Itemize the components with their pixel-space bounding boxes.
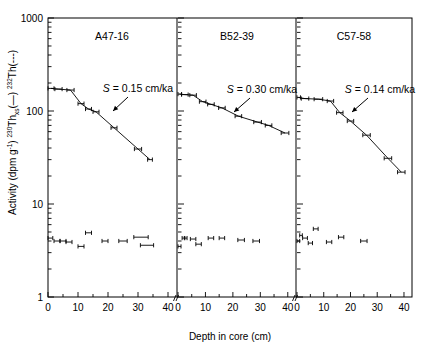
series-line-230Th-xs bbox=[179, 94, 285, 133]
x-tick-label: 40 bbox=[398, 302, 410, 313]
x-tick-label: 10 bbox=[200, 302, 212, 313]
panel-title-A47-16: A47-16 bbox=[95, 30, 129, 42]
x-tick-label: 40 bbox=[162, 302, 174, 313]
y-axis-label: Activity (dpm g-1) 230Thxs(—) 232Th(---) bbox=[6, 50, 20, 215]
x-axis-label: Depth in core (cm) bbox=[189, 331, 271, 342]
x-tick-label: 20 bbox=[102, 302, 114, 313]
x-tick-label: 40 bbox=[282, 302, 294, 313]
x-tick-label: 30 bbox=[372, 302, 384, 313]
y-tick-label: 100 bbox=[26, 106, 43, 117]
y-tick-label: 10 bbox=[32, 199, 44, 210]
x-tick-label: 0 bbox=[45, 302, 51, 313]
slope-annotation-A47-16: S = 0.15 cm/ka bbox=[103, 82, 173, 94]
chart-svg: 1000100101010203040010203040010203040Dep… bbox=[0, 0, 427, 347]
x-tick-label: 0 bbox=[175, 302, 181, 313]
x-tick-label: 0 bbox=[294, 302, 300, 313]
figure-container: 1000100101010203040010203040010203040Dep… bbox=[0, 0, 427, 347]
x-tick-label: 30 bbox=[255, 302, 267, 313]
y-tick-label: 1000 bbox=[21, 13, 44, 24]
slope-annotation-B52-39: S = 0.30 cm/ka bbox=[227, 83, 297, 95]
axis-break-mark bbox=[293, 295, 296, 301]
axis-break-mark bbox=[174, 295, 177, 301]
x-tick-label: 10 bbox=[72, 302, 84, 313]
y-tick-label: 1 bbox=[37, 292, 43, 303]
slope-annotation-C57-58: S = 0.14 cm/ka bbox=[345, 83, 415, 95]
plot-frame bbox=[48, 18, 412, 297]
x-tick-label: 20 bbox=[345, 302, 357, 313]
x-tick-label: 10 bbox=[318, 302, 330, 313]
series-line-230Th-xs bbox=[298, 97, 401, 172]
x-tick-label: 20 bbox=[227, 302, 239, 313]
panel-title-B52-39: B52-39 bbox=[220, 30, 254, 42]
panel-title-C57-58: C57-58 bbox=[337, 30, 372, 42]
x-tick-label: 30 bbox=[132, 302, 144, 313]
